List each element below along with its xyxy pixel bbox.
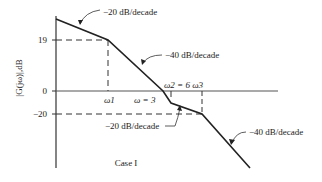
arrow-icon [229, 139, 235, 145]
leader-1 [80, 10, 100, 24]
leader-4 [232, 132, 246, 143]
case-title: Case I [115, 158, 138, 168]
omega2-label: ω2 = 6 ω3 [164, 80, 204, 90]
slope-label-2: −40 dB/decade [165, 50, 219, 60]
leader-3 [165, 108, 180, 126]
magnitude-curve [56, 19, 250, 168]
bode-diagram: 19 0 −20 |G(jω)|,dB −20 dB/decade −40 dB… [0, 0, 322, 182]
tick-label-19: 19 [38, 35, 48, 45]
omega1-label: ω1 [104, 95, 115, 105]
y-axis-label: |G(jω)|,dB [14, 59, 24, 96]
slope-label-1: −20 dB/decade [103, 7, 157, 17]
tick-label-0: 0 [43, 86, 48, 96]
arrow-icon [78, 20, 83, 25]
slope-label-3: −20 dB/decade [105, 121, 159, 131]
tick-label-neg20: −20 [33, 109, 48, 119]
omega-eq-3-label: ω = 3 [134, 95, 156, 105]
slope-label-4: −40 dB/decade [249, 127, 303, 137]
leader-2 [143, 55, 162, 63]
